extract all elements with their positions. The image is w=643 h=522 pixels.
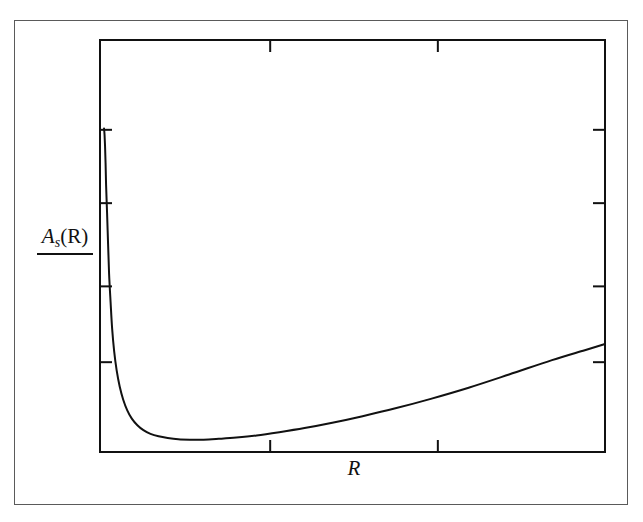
x-axis-label: R (322, 458, 386, 479)
y-axis-label-fraction-rule (37, 253, 93, 255)
figure-root: As(R) R (0, 0, 643, 522)
y-axis-label-symbol: A (42, 224, 55, 248)
figure-outer-border (14, 20, 628, 505)
y-axis-label-text: As(R) (42, 224, 88, 248)
y-axis-label: As(R) (34, 226, 96, 255)
y-axis-label-argument: (R) (60, 224, 88, 248)
